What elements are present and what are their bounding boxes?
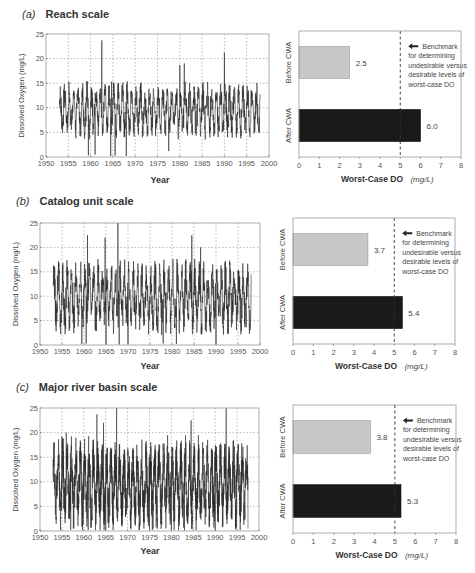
x-tick-label: 1980 (163, 533, 180, 542)
do-series-line (53, 408, 248, 531)
x-axis-label: Worst-Case DO (335, 361, 398, 371)
x-axis-unit: (mg/L) (404, 362, 427, 371)
after-cwa-bar (293, 296, 402, 328)
y-tick-label: 20 (30, 243, 38, 252)
benchmark-annotation: desirable levels of (408, 71, 464, 78)
after-cwa-bar (293, 485, 401, 518)
x-tick-label: 1985 (186, 347, 203, 356)
benchmark-annotation: undesirable versus (408, 62, 467, 69)
x-tick-label: 4 (372, 537, 376, 546)
y-tick-label: 15 (30, 453, 38, 462)
arrow-left-icon (408, 43, 418, 49)
do-series-line (59, 40, 260, 156)
x-axis-unit: (mg/L) (405, 551, 428, 560)
category-label: After CWA (284, 108, 293, 143)
x-axis-label: Worst-Case DO (341, 174, 404, 184)
x-tick-label: 2000 (252, 347, 269, 356)
bar-value-label: 5.3 (407, 497, 419, 506)
x-tick-label: 2 (332, 537, 336, 546)
x-tick-label: 0 (291, 537, 295, 546)
y-tick-label: 0 (34, 341, 38, 350)
x-tick-label: 0 (291, 348, 295, 357)
x-tick-label: 1990 (216, 159, 233, 168)
x-tick-label: 1990 (208, 347, 225, 356)
worst-case-bar-chart-c: 3.8Before CWA5.3After CWABenchmarkfor de… (278, 405, 462, 560)
x-tick-label: 1955 (60, 159, 77, 168)
y-tick-label: 0 (34, 527, 38, 536)
x-tick-label: 5 (392, 348, 396, 357)
x-tick-label: 1970 (127, 159, 144, 168)
benchmark-annotation: undesirable versus (402, 249, 461, 256)
bar-value-label: 5.4 (408, 309, 420, 318)
y-tick-label: 5 (34, 316, 38, 325)
x-tick-label: 1995 (238, 159, 255, 168)
benchmark-annotation: Benchmark (417, 417, 453, 424)
benchmark-annotation: for determining (403, 426, 450, 434)
x-tick-label: 7 (439, 161, 443, 170)
x-tick-label: 3 (358, 161, 362, 170)
benchmark-annotation: for determining (402, 239, 449, 247)
x-tick-label: 6 (413, 537, 417, 546)
before-cwa-bar (293, 233, 368, 265)
y-tick-label: 20 (30, 428, 38, 437)
x-tick-label: 1975 (149, 159, 166, 168)
x-tick-label: 7 (434, 537, 438, 546)
x-tick-label: 1965 (105, 159, 122, 168)
x-tick-label: 6 (418, 161, 422, 170)
y-tick-label: 25 (30, 219, 38, 228)
bar-value-label: 6.0 (427, 122, 439, 131)
worst-case-bar-chart-b: 3.7Before CWA5.4After CWABenchmarkfor de… (278, 218, 462, 371)
y-tick-label: 10 (30, 477, 38, 486)
x-tick-label: 5 (393, 537, 397, 546)
y-tick-label: 20 (36, 54, 44, 63)
y-tick-label: 0 (40, 153, 44, 162)
x-axis-label: Year (140, 361, 160, 371)
x-tick-label: 0 (297, 161, 301, 170)
x-tick-label: 1980 (171, 159, 188, 168)
benchmark-annotation: undesirable versus (403, 436, 462, 443)
y-tick-label: 10 (36, 103, 44, 112)
x-tick-label: 8 (454, 537, 458, 546)
y-axis-label: Dissolved Oxygen (mg/L) (17, 53, 26, 138)
x-tick-label: 2000 (251, 533, 268, 542)
x-tick-label: 2000 (261, 159, 278, 168)
y-tick-label: 5 (34, 502, 38, 511)
x-tick-label: 1975 (142, 347, 159, 356)
x-tick-label: 1960 (76, 347, 93, 356)
x-tick-label: 4 (378, 161, 382, 170)
category-label: Before CWA (278, 416, 287, 457)
x-tick-label: 1 (311, 348, 315, 357)
y-tick-label: 15 (30, 267, 38, 276)
x-tick-label: 1960 (75, 533, 92, 542)
x-tick-label: 3 (352, 348, 356, 357)
x-tick-label: 1995 (229, 533, 246, 542)
timeseries-chart-b: 1950195519601965197019751980198519901995… (11, 219, 268, 372)
x-tick-label: 1 (317, 161, 321, 170)
y-tick-label: 15 (36, 79, 44, 88)
benchmark-annotation: desirable levels of (403, 445, 459, 452)
benchmark-annotation: Benchmark (422, 43, 458, 50)
x-tick-label: 1980 (164, 347, 181, 356)
y-tick-label: 5 (40, 128, 44, 137)
before-cwa-bar (293, 421, 370, 454)
x-tick-label: 1965 (98, 347, 115, 356)
x-tick-label: 6 (412, 348, 416, 357)
benchmark-annotation: for determining (408, 52, 455, 60)
category-label: After CWA (278, 295, 287, 330)
category-label: Before CWA (278, 229, 287, 270)
timeseries-chart-a: 1950195519601965197019751980198519901995… (17, 30, 277, 186)
benchmark-annotation: worst-case DO (407, 81, 455, 88)
x-tick-label: 1970 (120, 347, 137, 356)
x-tick-label: 8 (459, 161, 463, 170)
bar-value-label: 3.7 (374, 246, 386, 255)
x-tick-label: 1995 (230, 347, 247, 356)
x-tick-label: 4 (372, 348, 376, 357)
worst-case-bar-chart-a: 2.5Before CWA6.0After CWABenchmarkfor de… (284, 31, 468, 184)
bar-value-label: 2.5 (356, 59, 368, 68)
x-tick-label: 1990 (207, 533, 224, 542)
y-tick-label: 25 (36, 30, 44, 39)
x-tick-label: 3 (352, 537, 356, 546)
category-label: Before CWA (284, 42, 293, 83)
x-tick-label: 1960 (82, 159, 99, 168)
before-cwa-bar (299, 46, 350, 78)
